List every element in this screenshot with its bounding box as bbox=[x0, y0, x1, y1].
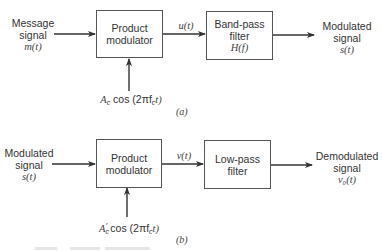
input-line1: Modulated bbox=[4, 147, 54, 159]
intermediate-signal-v: v(t) bbox=[170, 150, 198, 162]
output-label-a: Modulated signal s(t) bbox=[314, 20, 380, 56]
input-symbol: m(t) bbox=[10, 41, 56, 53]
output-line2: signal bbox=[312, 162, 382, 174]
faded-caption-mark bbox=[105, 247, 150, 250]
output-label-b: Demodulated signal v₀(t) bbox=[312, 150, 382, 186]
carrier-tail: t) bbox=[155, 94, 161, 105]
faded-caption-mark bbox=[70, 247, 100, 250]
carrier-label-a: Ac cos (2πfct) bbox=[90, 93, 172, 109]
band-pass-filter-block: Band-pass filter H(f) bbox=[206, 11, 273, 60]
input-line2: signal bbox=[10, 29, 56, 41]
input-label-a: Message signal m(t) bbox=[10, 17, 56, 53]
output-line2: signal bbox=[314, 32, 380, 44]
output-symbol: v₀(t) bbox=[312, 174, 382, 186]
low-pass-filter-block: Low-pass filter bbox=[204, 140, 271, 189]
carrier-text: cos (2πf bbox=[110, 93, 152, 105]
diagram-label-a: (a) bbox=[176, 106, 188, 117]
block-line2: filter bbox=[228, 165, 248, 177]
block-line1: Band-pass bbox=[214, 18, 264, 30]
output-line1: Demodulated bbox=[312, 150, 382, 162]
output-symbol: s(t) bbox=[314, 44, 380, 56]
carrier-tail: t) bbox=[153, 223, 159, 234]
transfer-function: H(f) bbox=[231, 42, 249, 54]
block-line1: Low-pass bbox=[215, 153, 260, 165]
input-line1: Message bbox=[10, 17, 56, 29]
product-modulator-block-a: Product modulator bbox=[96, 10, 163, 58]
carrier-label-b: Ac′ cos (2πfct) bbox=[88, 220, 170, 238]
carrier-text: cos (2πf bbox=[107, 222, 149, 234]
product-modulator-block-b: Product modulator bbox=[96, 139, 162, 188]
faded-caption-mark bbox=[35, 247, 57, 250]
output-line1: Modulated bbox=[314, 20, 380, 32]
block-line2: filter bbox=[230, 30, 250, 42]
block-line1: Product bbox=[111, 152, 147, 164]
diagram-label-b: (b) bbox=[176, 234, 188, 245]
block-line1: Product bbox=[111, 22, 147, 34]
input-line2: signal bbox=[4, 159, 54, 171]
input-label-b: Modulated signal s(t) bbox=[4, 147, 54, 183]
intermediate-signal-u: u(t) bbox=[172, 20, 200, 32]
block-line2: modulator bbox=[106, 164, 153, 176]
input-symbol: s(t) bbox=[4, 171, 54, 183]
block-line2: modulator bbox=[106, 34, 153, 46]
